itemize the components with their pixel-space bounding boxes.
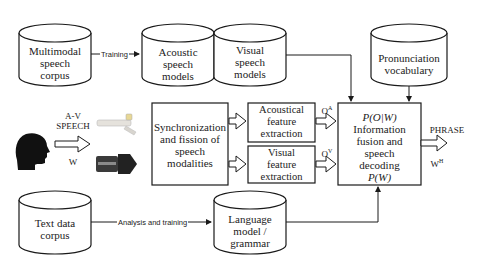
fusion-pW-label: P(W) [338, 171, 421, 183]
language-model-label: Language model / grammar [214, 213, 286, 249]
fusion-label: Information fusion and speech decoding [338, 123, 421, 171]
head-silhouette-icon [16, 133, 50, 170]
wh-label: WH [425, 155, 449, 170]
analysis-edge-label: Analysis and training [117, 218, 188, 227]
acoustic-models-label: Acoustic speech models [142, 46, 214, 82]
sync-fission-label: Synchronization and fission of speech mo… [152, 121, 228, 169]
multimodal-corpus-label: Multimodal speech corpus [19, 45, 91, 81]
av-speech-label: A-V SPEECH [50, 111, 96, 131]
text-corpus-label: Text data corpus [19, 217, 91, 241]
camera-image [96, 154, 137, 174]
fusion-poW-label: P(O|W) [338, 111, 421, 123]
ov-label: OV [318, 145, 336, 160]
speech-input-arrow [55, 136, 90, 152]
training-edge-label: Training [100, 50, 129, 59]
output-arrow [421, 135, 447, 151]
phrase-label: PHRASE [420, 124, 474, 136]
microphone-image [97, 114, 136, 135]
oa-label: OA [318, 102, 336, 117]
w-input-label: W [60, 156, 86, 168]
pronunciation-vocabulary-label: Pronunciation vocabulary [371, 52, 447, 76]
visual-models-label: Visual speech models [214, 44, 286, 80]
acoustic-fe-label: Acoustical feature extraction [248, 104, 315, 140]
visual-fe-label: Visual feature extraction [248, 147, 315, 183]
